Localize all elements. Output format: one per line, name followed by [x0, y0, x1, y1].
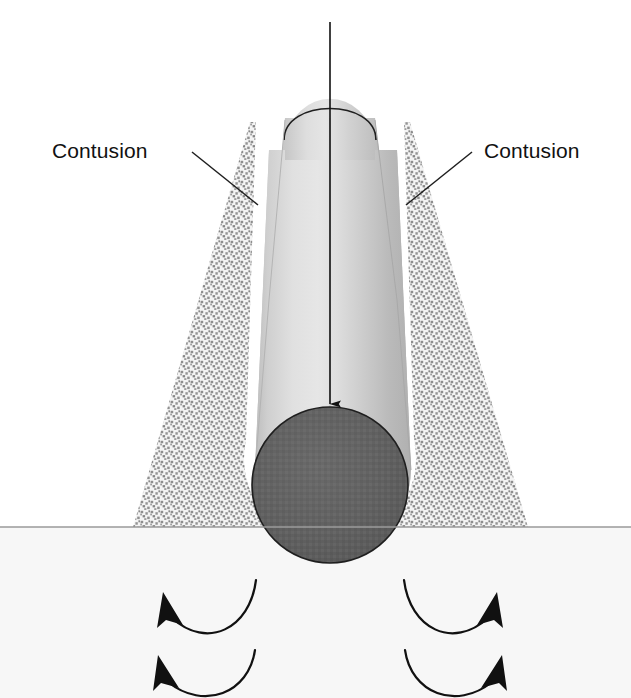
figure-canvas: Contusion Contusion — [0, 0, 631, 698]
left-contusion-label: Contusion — [52, 139, 147, 162]
right-contusion-label: Contusion — [484, 139, 579, 162]
contusion-figure: Contusion Contusion — [0, 0, 631, 698]
